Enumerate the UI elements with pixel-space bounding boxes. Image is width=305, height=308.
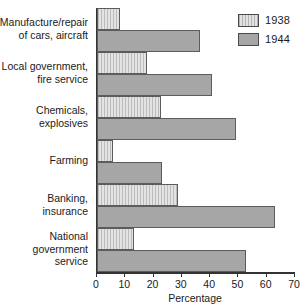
x-tick-label-30: 30 [169,278,193,290]
category-label-local-government-line1: Local government, [0,60,88,73]
bar-banking-1938 [97,184,178,206]
x-tick-label-60: 60 [254,278,278,290]
category-label-national-government-line2: government [0,243,88,256]
bar-manufacture-1938 [97,8,120,30]
x-tick-10 [124,272,125,277]
category-label-manufacture-line1: Manufacture/repair [0,16,88,29]
x-tick-60 [266,272,267,277]
bar-manufacture-1944 [97,30,200,52]
x-tick-70 [294,272,295,277]
category-label-farming: Farming [0,154,88,167]
bars-container [97,8,295,272]
bar-farming-1944 [97,162,162,184]
x-tick-label-20: 20 [141,278,165,290]
category-label-national-government-line1: National [0,230,88,243]
x-tick-label-0: 0 [84,278,108,290]
category-label-local-government-line2: fire service [0,73,88,86]
bar-national-government-1944 [97,250,246,272]
category-label-banking-line1: Banking, [0,192,88,205]
x-tick-40 [209,272,210,277]
x-axis-title: Percentage [96,292,294,304]
bar-chemicals-1938 [97,96,161,118]
bar-farming-1938 [97,140,113,162]
category-label-banking-line2: insurance [0,205,88,218]
bar-chart: 1938 1944 Manufacture/repair of cars, ai… [0,0,305,308]
x-tick-0 [96,272,97,277]
bar-chemicals-1944 [97,118,236,140]
bar-local-government-1938 [97,52,147,74]
x-tick-30 [181,272,182,277]
x-tick-label-40: 40 [197,278,221,290]
x-tick-20 [153,272,154,277]
x-axis-line [96,272,294,274]
x-tick-label-10: 10 [112,278,136,290]
category-label-national-government-line3: service [0,255,88,268]
bar-local-government-1944 [97,74,212,96]
plot-area [96,8,295,272]
category-label-manufacture-line2: of cars, aircraft [0,29,88,42]
bar-national-government-1938 [97,228,134,250]
category-label-chemicals-line2: explosives [0,117,88,130]
x-tick-label-50: 50 [225,278,249,290]
category-label-chemicals-line1: Chemicals, [0,104,88,117]
x-tick-label-70: 70 [282,278,305,290]
category-axis-labels: Manufacture/repair of cars, aircraft Loc… [0,8,92,272]
x-tick-50 [237,272,238,277]
bar-banking-1944 [97,206,275,228]
